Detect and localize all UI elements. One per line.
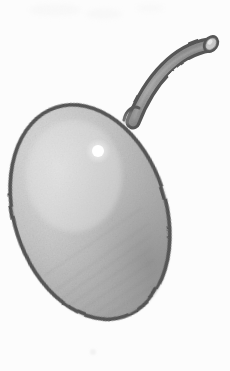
paper-smudge-dot xyxy=(90,349,96,355)
sketch-canvas: Plum with stem graphite pencil sketch pl… xyxy=(0,0,230,371)
specular-highlight-core xyxy=(92,145,104,157)
specular-highlight xyxy=(85,138,110,163)
fruit-body-light-pool xyxy=(26,120,122,232)
fruit-sketch-drawing xyxy=(0,0,230,371)
